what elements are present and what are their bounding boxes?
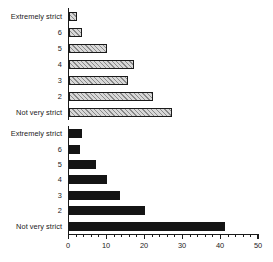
bar-row: 3 (0, 188, 273, 202)
x-tick-minor (152, 234, 153, 237)
x-tick-label: 50 (254, 241, 262, 250)
x-tick-minor (212, 234, 213, 237)
category-label: 3 (0, 191, 62, 200)
bar (69, 160, 96, 169)
category-label: 6 (0, 28, 62, 37)
bar-row: 4 (0, 173, 273, 187)
bar-row: 6 (0, 142, 273, 156)
x-tick-minor (136, 234, 137, 237)
x-tick-label: 10 (102, 241, 110, 250)
bar (69, 206, 145, 215)
x-tick-minor (174, 234, 175, 237)
category-label: Extremely strict (0, 129, 62, 138)
x-tick-major (182, 234, 183, 239)
chart-figure: Extremely strict65432Not very strict Ext… (0, 0, 273, 262)
x-tick-major (144, 234, 145, 239)
x-tick-minor (121, 234, 122, 237)
bar-row: Extremely strict (0, 9, 273, 23)
bar-rows-top: Extremely strict65432Not very strict (0, 8, 273, 120)
bar (69, 222, 225, 231)
bar (69, 76, 128, 85)
chart-panel-bottom: Extremely strict65432Not very strict (0, 126, 273, 234)
bar-row: Not very strict (0, 105, 273, 119)
bar (69, 60, 134, 69)
x-tick-minor (205, 234, 206, 237)
x-tick-minor (91, 234, 92, 237)
category-label: 5 (0, 44, 62, 53)
bar-row: 4 (0, 57, 273, 71)
x-tick-minor (190, 234, 191, 237)
bar-row: Not very strict (0, 219, 273, 233)
bar (69, 145, 80, 154)
bar (69, 28, 82, 37)
category-label: 4 (0, 60, 62, 69)
category-label: 4 (0, 175, 62, 184)
bar-row: 6 (0, 25, 273, 39)
category-label: 3 (0, 76, 62, 85)
x-tick-minor (243, 234, 244, 237)
x-axis: 01020304050 (0, 234, 273, 262)
x-tick-minor (76, 234, 77, 237)
bar-row: 5 (0, 158, 273, 172)
x-axis-line (68, 234, 258, 235)
bar-row: 3 (0, 73, 273, 87)
category-label: Not very strict (0, 222, 62, 231)
bar-rows-bottom: Extremely strict65432Not very strict (0, 126, 273, 234)
x-tick-major (106, 234, 107, 239)
x-tick-label: 40 (216, 241, 224, 250)
category-label: 5 (0, 160, 62, 169)
x-tick-minor (98, 234, 99, 237)
bar (69, 129, 82, 138)
bar (69, 191, 120, 200)
x-tick-major (220, 234, 221, 239)
category-label: 2 (0, 92, 62, 101)
chart-panel-top: Extremely strict65432Not very strict (0, 8, 273, 120)
category-label: Extremely strict (0, 12, 62, 21)
x-tick-minor (129, 234, 130, 237)
x-tick-major (68, 234, 69, 239)
category-label: Not very strict (0, 108, 62, 117)
category-label: 6 (0, 145, 62, 154)
bar (69, 44, 107, 53)
category-label: 2 (0, 206, 62, 215)
x-tick-minor (250, 234, 251, 237)
bar-row: 2 (0, 204, 273, 218)
bar-row: 5 (0, 41, 273, 55)
bar-row: 2 (0, 89, 273, 103)
x-tick-label: 30 (178, 241, 186, 250)
bar (69, 175, 107, 184)
x-tick-minor (235, 234, 236, 237)
bar (69, 108, 172, 117)
x-tick-minor (159, 234, 160, 237)
x-tick-label: 20 (140, 241, 148, 250)
x-tick-minor (114, 234, 115, 237)
bar (69, 12, 77, 21)
bar (69, 92, 153, 101)
x-tick-minor (83, 234, 84, 237)
x-tick-major (258, 234, 259, 239)
x-tick-minor (228, 234, 229, 237)
x-tick-minor (197, 234, 198, 237)
bar-row: Extremely strict (0, 127, 273, 141)
x-tick-label: 0 (66, 241, 70, 250)
x-tick-minor (167, 234, 168, 237)
